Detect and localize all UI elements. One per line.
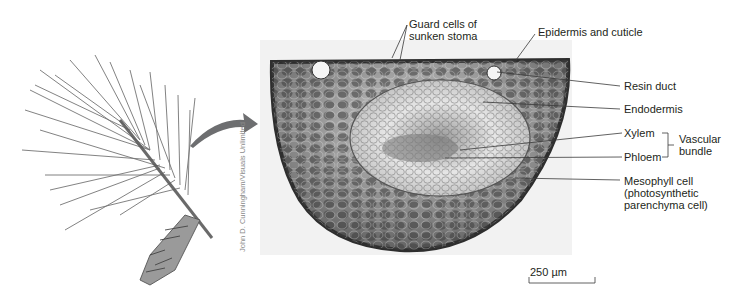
label-epidermis: Epidermis and cuticle bbox=[538, 26, 643, 38]
pine-cone bbox=[140, 215, 200, 285]
scale-bar-label: 250 µm bbox=[530, 266, 567, 278]
label-mesophyll-line3: parenchyma cell) bbox=[624, 199, 708, 211]
label-guard-cells-line1: Guard cells of bbox=[409, 18, 477, 30]
photo-credit: John D. Cunningham/Visuals Unlimited bbox=[238, 122, 247, 252]
label-vascular-bundle: Vascular bundle bbox=[679, 133, 721, 157]
label-guard-cells-line2: sunken stoma bbox=[409, 30, 477, 42]
pine-branch-illustration bbox=[22, 55, 212, 285]
label-guard-cells: Guard cells of sunken stoma bbox=[409, 18, 477, 42]
label-mesophyll-line2: (photosynthetic bbox=[624, 187, 708, 199]
pointer-arrow bbox=[190, 113, 258, 148]
label-endodermis: Endodermis bbox=[624, 103, 683, 115]
resin-duct-left bbox=[312, 61, 330, 79]
pine-needle-figure: Guard cells of sunken stoma Epidermis an… bbox=[0, 0, 739, 304]
label-vascular-line2: bundle bbox=[679, 145, 721, 157]
label-mesophyll-line1: Mesophyll cell bbox=[624, 175, 708, 187]
label-resin-duct: Resin duct bbox=[624, 80, 676, 92]
label-vascular-line1: Vascular bbox=[679, 133, 721, 145]
resin-duct-right bbox=[487, 66, 501, 80]
label-xylem: Xylem bbox=[624, 127, 655, 139]
label-phloem: Phloem bbox=[624, 151, 661, 163]
label-mesophyll: Mesophyll cell (photosynthetic parenchym… bbox=[624, 175, 708, 211]
